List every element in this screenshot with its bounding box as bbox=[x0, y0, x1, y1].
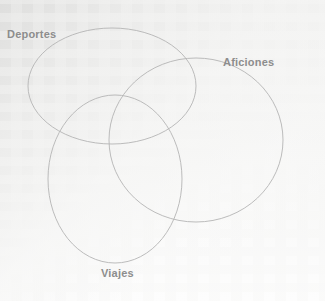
venn-label-deportes: Deportes bbox=[7, 29, 56, 40]
venn-label-viajes: Viajes bbox=[101, 268, 134, 279]
venn-circle-deportes[interactable] bbox=[28, 28, 196, 144]
venn-circle-viajes[interactable] bbox=[48, 95, 182, 263]
venn-diagram-page: Deportes Aficiones Viajes bbox=[0, 0, 325, 301]
venn-diagram-canvas bbox=[0, 0, 325, 301]
venn-label-aficiones: Aficiones bbox=[223, 57, 274, 68]
